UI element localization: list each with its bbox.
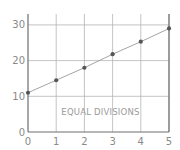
y-axis-tick-labels: 0102030: [12, 19, 25, 137]
x-tick-label: 2: [81, 136, 87, 147]
line-chart: 012345 0102030 EQUAL DIVISIONS: [0, 0, 180, 150]
data-point-marker: [167, 26, 171, 30]
data-point-marker: [26, 91, 30, 95]
equal-divisions-annotation: EQUAL DIVISIONS: [61, 107, 139, 117]
x-tick-label: 0: [25, 136, 31, 147]
x-tick-label: 1: [53, 136, 59, 147]
x-tick-label: 3: [109, 136, 115, 147]
data-point-marker: [82, 66, 86, 70]
data-point-marker: [111, 52, 115, 56]
x-tick-label: 5: [166, 136, 172, 147]
data-point-marker: [54, 78, 58, 82]
data-point-marker: [139, 40, 143, 44]
x-axis-tick-labels: 012345: [25, 136, 172, 147]
y-tick-label: 0: [19, 127, 25, 138]
y-tick-label: 20: [12, 55, 25, 66]
x-tick-label: 4: [138, 136, 144, 147]
y-tick-label: 30: [12, 19, 25, 30]
y-tick-label: 10: [12, 91, 25, 102]
